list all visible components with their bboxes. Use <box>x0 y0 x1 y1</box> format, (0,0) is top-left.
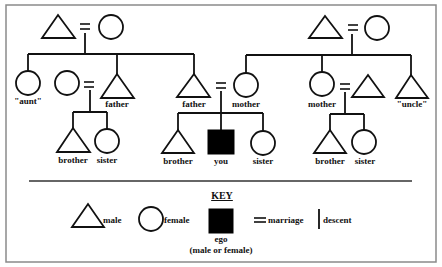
key-marriage-label: marriage <box>268 215 303 225</box>
father-left-label: father <box>105 99 129 109</box>
mother-right-label: mother <box>308 99 336 109</box>
mother-right-circle-icon <box>310 72 334 96</box>
you-label: you <box>214 156 228 166</box>
sister-center-label: sister <box>253 156 274 166</box>
sister-left-label: sister <box>97 155 118 165</box>
key-title: KEY <box>211 190 233 201</box>
key-female-circle-icon <box>139 207 163 231</box>
father-left-wife-circle-icon <box>55 71 79 95</box>
female-circle-icon <box>99 15 123 39</box>
sister-right-label: sister <box>355 156 376 166</box>
key-descent-label: descent <box>323 215 352 225</box>
sister-right-circle-icon <box>352 130 376 154</box>
mother-center-label: mother <box>232 99 260 109</box>
key-male-label: male <box>103 215 122 225</box>
brother-right-label: brother <box>315 156 344 166</box>
uncle-label: "uncle" <box>397 99 428 109</box>
female-circle-icon <box>365 16 389 40</box>
key-ego-square-icon <box>209 209 233 233</box>
key-ego-note: (male or female) <box>190 245 253 255</box>
father-center-label: father <box>182 99 206 109</box>
kinship-diagram: "aunt" father brother sister father moth… <box>0 0 442 267</box>
aunt-circle-icon <box>16 71 40 95</box>
sister-left-circle-icon <box>95 129 119 153</box>
brother-center-label: brother <box>163 156 192 166</box>
key-female-label: female <box>164 215 189 225</box>
brother-left-label: brother <box>58 155 87 165</box>
ego-you-square-icon <box>208 130 234 154</box>
aunt-label: "aunt" <box>14 96 42 106</box>
mother-center-circle-icon <box>234 73 258 97</box>
key-ego-label: ego <box>215 234 228 244</box>
sister-center-circle-icon <box>251 131 275 155</box>
